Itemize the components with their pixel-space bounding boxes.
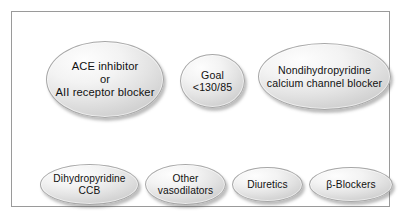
node-goal[interactable]: Goal <130/85	[180, 54, 245, 108]
node-nondihydropyridine-ccb-label: Nondihydropyridine calcium channel block…	[263, 64, 386, 88]
node-ace-inhibitor[interactable]: ACE inhibitor or AII receptor blocker	[46, 41, 164, 118]
node-diuretics-label: Diuretics	[243, 179, 292, 191]
node-nondihydropyridine-ccb[interactable]: Nondihydropyridine calcium channel block…	[258, 43, 391, 110]
node-other-vasodilators[interactable]: Other vasodilators	[145, 164, 226, 205]
node-goal-label: Goal <130/85	[189, 69, 236, 93]
node-other-vasodilators-label: Other vasodilators	[154, 173, 218, 196]
node-ace-inhibitor-label: ACE inhibitor or AII receptor blocker	[51, 60, 158, 99]
node-beta-blockers-label: β-Blockers	[322, 179, 379, 191]
node-diuretics[interactable]: Diuretics	[232, 167, 303, 202]
node-dihydropyridine-ccb[interactable]: Dihydropyridine CCB	[40, 164, 139, 205]
figure-canvas: ACE inhibitor or AII receptor blocker Go…	[0, 0, 405, 220]
node-beta-blockers[interactable]: β-Blockers	[309, 167, 393, 202]
node-dihydropyridine-ccb-label: Dihydropyridine CCB	[49, 173, 129, 196]
figure-border-frame: ACE inhibitor or AII receptor blocker Go…	[11, 11, 390, 207]
